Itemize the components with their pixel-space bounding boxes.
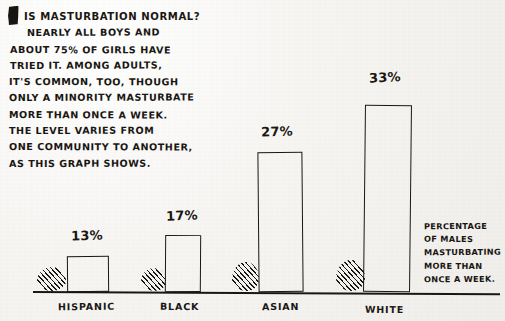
article-line-7: THE LEVEL VARIES FROM xyxy=(9,123,249,140)
caption-line-2: OF MALES xyxy=(424,233,504,247)
article-line-9: AS THIS GRAPH SHOWS. xyxy=(9,155,249,172)
caption-line-5: ONCE A WEEK. xyxy=(424,273,504,287)
article-line-8: ONE COMMUNITY TO ANOTHER, xyxy=(9,139,249,156)
chart-caption: PERCENTAGE OF MALES MASTURBATING MORE TH… xyxy=(424,220,504,286)
article-line-6: MORE THAN ONCE A WEEK. xyxy=(9,107,249,124)
article-heading: IS MASTURBATION NORMAL? xyxy=(24,9,249,25)
caption-line-3: MASTURBATING xyxy=(424,246,504,260)
article-line-5: ONLY A MINORITY MASTURBATE xyxy=(9,90,249,107)
article-line-3: TRIED IT. AMONG ADULTS, xyxy=(10,57,249,74)
drop-cap-initial xyxy=(8,6,19,25)
article-line-1: NEARLY ALL BOYS AND xyxy=(27,24,249,41)
article-line-4: IT'S COMMON, TOO, THOUGH xyxy=(9,74,249,91)
article-line-2: ABOUT 75% OF GIRLS HAVE xyxy=(10,42,249,59)
caption-line-4: MORE THAN xyxy=(424,259,504,273)
caption-line-1: PERCENTAGE xyxy=(424,220,504,234)
article-text-block: IS MASTURBATION NORMAL? NEARLY ALL BOYS … xyxy=(9,9,249,172)
